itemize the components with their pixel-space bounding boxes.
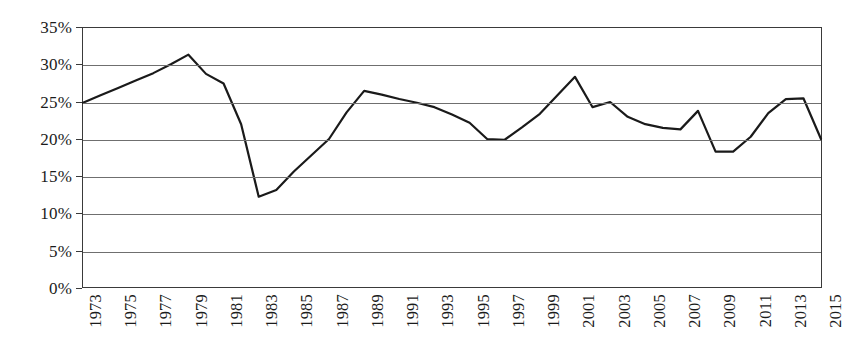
x-axis-tick-label: 1981 xyxy=(229,294,246,328)
x-axis-tick-label: 1997 xyxy=(511,294,528,328)
gridline xyxy=(83,103,821,104)
x-axis-tick-label: 2007 xyxy=(687,294,704,328)
y-axis-tick-label: 35% xyxy=(0,19,72,36)
x-axis-tick-label: 1983 xyxy=(264,294,281,328)
x-axis-tick-label: 2009 xyxy=(722,294,739,328)
x-axis-tick-label: 2015 xyxy=(828,294,845,328)
x-axis-tick-label: 2003 xyxy=(617,294,634,328)
gridline xyxy=(83,177,821,178)
y-axis-tick-label: 10% xyxy=(0,205,72,222)
y-axis-tick-mark xyxy=(76,27,82,28)
line-chart: 0%5%10%15%20%25%30%35% 19731975197719791… xyxy=(0,0,856,360)
data-line-series-1 xyxy=(83,55,821,197)
x-axis: 1973197519771979198119831985198719891991… xyxy=(0,288,856,360)
x-axis-tick-label: 2001 xyxy=(581,294,598,328)
x-axis-tick-label: 1987 xyxy=(335,294,352,328)
data-series-layer xyxy=(83,28,821,287)
x-axis-tick-label: 1977 xyxy=(158,294,175,328)
gridline xyxy=(83,65,821,66)
x-axis-tick-label: 1975 xyxy=(123,294,140,328)
y-axis-tick-label: 5% xyxy=(0,242,72,259)
y-axis-tick-label: 15% xyxy=(0,168,72,185)
gridline xyxy=(83,252,821,253)
gridline xyxy=(83,214,821,215)
x-axis-tick-label: 1993 xyxy=(440,294,457,328)
gridline xyxy=(83,140,821,141)
y-axis-tick-label: 25% xyxy=(0,93,72,110)
x-axis-tick-label: 2013 xyxy=(793,294,810,328)
y-axis-tick-label: 20% xyxy=(0,130,72,147)
x-axis-tick-label: 1991 xyxy=(405,294,422,328)
x-axis-tick-label: 1995 xyxy=(476,294,493,328)
y-axis-tick-mark xyxy=(76,139,82,140)
y-axis-tick-mark xyxy=(76,251,82,252)
x-axis-tick-label: 2011 xyxy=(758,294,775,327)
x-axis-tick-label: 1989 xyxy=(370,294,387,328)
y-axis-tick-mark xyxy=(76,176,82,177)
y-axis-tick-label: 30% xyxy=(0,56,72,73)
x-axis-tick-label: 1999 xyxy=(546,294,563,328)
plot-area xyxy=(82,27,822,288)
x-axis-tick-label: 2005 xyxy=(652,294,669,328)
y-axis-tick-mark xyxy=(76,288,82,289)
y-axis-tick-mark xyxy=(76,102,82,103)
x-axis-tick-label: 1985 xyxy=(299,294,316,328)
y-axis-tick-mark xyxy=(76,213,82,214)
x-axis-tick-label: 1979 xyxy=(194,294,211,328)
x-axis-tick-label: 1973 xyxy=(88,294,105,328)
y-axis-tick-mark xyxy=(76,64,82,65)
